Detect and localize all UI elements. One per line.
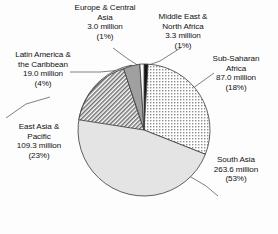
label-line-3: 3.3 million [148,31,218,41]
slice-label-east-asia-pacific: East Asia & Pacific 109.3 million (23%) [2,122,76,160]
pie-chart-figure: Europe & Central Asia 3.0 million (1%) M… [0,0,278,234]
label-line-2: Asia [62,13,148,23]
slice-label-south-asia: South Asia 263.6 million (53%) [198,155,274,184]
label-line-4: (23%) [2,151,76,161]
label-line-1: East Asia & [2,122,76,132]
label-line-2: Pacific [2,132,76,142]
label-line-1: South Asia [198,155,274,165]
label-line-1: Middle East & [148,12,218,22]
slice-label-latin-america-caribbean: Latin America & the Caribbean 19.0 milli… [2,50,84,88]
label-line-1: Latin America & [2,50,84,60]
label-line-3: 19.0 million [2,69,84,79]
slice-label-middle-east-north-africa: Middle East & North Africa 3.3 million (… [148,12,218,50]
leader-line-europe-central-asia [113,48,139,66]
leader-line-east-asia-pacific [6,97,50,118]
slice-label-europe-central-asia: Europe & Central Asia 3.0 million (1%) [62,3,148,41]
slice-label-sub-saharan-africa: Sub-Saharan Africa 87.0 million (18%) [196,54,276,92]
label-line-3: (53%) [198,174,274,184]
label-line-2: Africa [196,64,276,74]
label-line-4: (1%) [62,32,148,42]
label-line-4: (1%) [148,41,218,51]
label-line-2: the Caribbean [2,60,84,70]
label-line-3: 109.3 million [2,141,76,151]
label-line-4: (18%) [196,83,276,93]
label-line-1: Sub-Saharan [196,54,276,64]
label-line-4: (4%) [2,79,84,89]
label-line-3: 87.0 million [196,73,276,83]
label-line-1: Europe & Central [62,3,148,13]
label-line-2: North Africa [148,22,218,32]
label-line-2: 263.6 million [198,165,274,175]
pie-slices [78,64,210,196]
label-line-3: 3.0 million [62,22,148,32]
